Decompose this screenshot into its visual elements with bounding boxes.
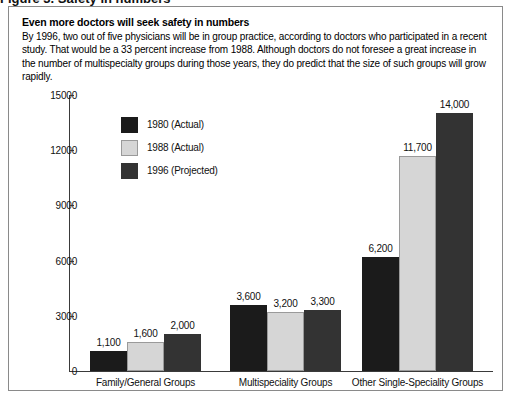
page-title: Even more doctors will seek safety in nu… [22, 16, 487, 28]
figure-description: By 1996, two out of five physicians will… [22, 30, 492, 84]
bar-value-label: 11,700 [403, 142, 432, 153]
bar [304, 310, 341, 371]
legend-label: 1988 (Actual) [147, 142, 204, 153]
legend-label: 1996 (Projected) [147, 165, 218, 176]
legend-label: 1980 (Actual) [147, 119, 204, 130]
bar-value-label: 1,600 [133, 328, 157, 339]
bar-value-label: 2,000 [170, 320, 194, 331]
y-axis-tick-label: 3000 [9, 310, 77, 321]
x-axis-category-label: Multispeciality Groups [239, 377, 332, 388]
chart-legend: 1980 (Actual)1988 (Actual)1996 (Projecte… [121, 113, 218, 182]
bar [436, 113, 473, 371]
y-axis-tick-label: 9000 [9, 200, 77, 211]
legend-item: 1988 (Actual) [121, 136, 218, 159]
x-axis-category-label: Family/General Groups [96, 377, 195, 388]
legend-swatch [121, 163, 138, 179]
y-axis-tick-label: 0 [9, 366, 77, 377]
legend-item: 1980 (Actual) [121, 113, 218, 136]
bar [90, 351, 127, 371]
y-axis-tick-label: 15000 [9, 90, 77, 101]
legend-swatch [121, 140, 138, 156]
bar [127, 342, 164, 371]
bar-value-label: 3,200 [273, 298, 297, 309]
bar-value-label: 1,100 [96, 337, 120, 348]
bar [267, 312, 304, 371]
x-axis-category-label: Other Single-Speciality Groups [352, 377, 483, 388]
y-axis-tick-label: 6000 [9, 255, 77, 266]
chart-plot-area: 03000600090001200015000 1,1001,6002,0003… [9, 85, 502, 390]
x-axis-line [69, 371, 493, 372]
bar-value-label: 14,000 [440, 99, 469, 110]
bar [164, 334, 201, 371]
bar-value-label: 3,600 [236, 291, 260, 302]
figure-container: Even more doctors will seek safety in nu… [8, 6, 503, 391]
legend-item: 1996 (Projected) [121, 159, 218, 182]
bar [362, 257, 399, 371]
bar [230, 305, 267, 371]
legend-swatch [121, 117, 138, 133]
y-axis-tick-label: 12000 [9, 145, 77, 156]
bar [399, 156, 436, 371]
bar-value-label: 6,200 [368, 243, 392, 254]
bar-value-label: 3,300 [310, 296, 334, 307]
